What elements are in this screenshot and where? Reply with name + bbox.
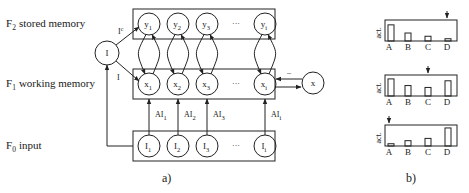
- tick-label-d: D: [444, 147, 451, 157]
- edge-f0-to-i: [107, 65, 133, 146]
- edge-label-ai2: AI2: [184, 110, 196, 121]
- tick-label-b: B: [405, 42, 411, 52]
- tick-label-c: C: [425, 147, 431, 157]
- chart-frame: [385, 75, 457, 96]
- edge-label-i: I: [117, 73, 120, 82]
- figure: F2stored memoryF1working memoryF0input y…: [0, 0, 469, 193]
- node-label-x3: x3: [202, 79, 210, 91]
- bar-d: [445, 39, 451, 41]
- tick-label-c: C: [425, 42, 431, 52]
- node-label-i1: I1: [145, 141, 151, 153]
- node-label-i3: I3: [203, 141, 209, 153]
- layer-label-f2: F2stored memory: [6, 17, 86, 32]
- layer-label-f0: F0input: [6, 139, 42, 154]
- bar-d: [445, 128, 451, 146]
- node-label-x1: x1: [144, 79, 152, 91]
- node-label-x: x: [311, 78, 316, 88]
- node-label-i2: I2: [174, 141, 180, 153]
- node-label-i: I: [106, 48, 109, 58]
- edge-top-down: [254, 35, 262, 75]
- tick-label-d: D: [444, 42, 451, 52]
- bar-a: [388, 144, 394, 146]
- bar-b: [405, 86, 411, 96]
- y-axis-label: act.: [374, 27, 383, 38]
- tick-label-a: A: [386, 147, 393, 157]
- layer-label-f1: F1working memory: [6, 77, 95, 92]
- edge-label-ic: Ic: [118, 26, 124, 36]
- activation-chart-2: act.ABCD: [374, 66, 457, 107]
- bar-b: [405, 33, 411, 41]
- activation-chart-3: act.ABCD: [374, 116, 457, 157]
- node-label-yi: yi: [261, 19, 268, 31]
- bar-b: [405, 141, 411, 146]
- edge-bottom-up: [181, 35, 189, 75]
- panel-a-art1-network: F2stored memoryF1working memoryF0input y…: [6, 9, 324, 185]
- node-label-ii: Ii: [262, 141, 267, 153]
- edge-label-ai1: AI1: [155, 110, 167, 121]
- bar-a: [388, 79, 394, 96]
- tick-label-a: A: [386, 42, 393, 52]
- ellipsis: ···: [232, 141, 240, 150]
- bar-c: [425, 138, 431, 146]
- bar-a: [388, 25, 394, 41]
- tick-label-b: B: [405, 97, 411, 107]
- node-label-xi: xi: [261, 79, 268, 91]
- edge-label-minus: –: [286, 68, 292, 77]
- edge-label-ai3: AI3: [213, 110, 225, 121]
- bar-c: [425, 36, 431, 41]
- tick-label-c: C: [425, 97, 431, 107]
- edge-bottom-up: [152, 35, 160, 75]
- panel-b-caption: b): [406, 171, 416, 185]
- node-label-y2: y2: [173, 19, 181, 31]
- node-label-x2: x2: [173, 79, 181, 91]
- tick-label-b: B: [405, 147, 411, 157]
- tick-label-d: D: [444, 97, 451, 107]
- bar-c: [425, 87, 431, 96]
- bar-d: [445, 81, 451, 96]
- y-axis-label: act.: [374, 132, 383, 143]
- edge-bottom-up: [210, 35, 218, 75]
- edge-label-aii: AIi: [271, 110, 281, 121]
- tick-label-a: A: [386, 97, 393, 107]
- edge-bottom-up: [268, 35, 276, 75]
- edge-top-down: [196, 35, 204, 75]
- ellipsis: ···: [232, 19, 240, 28]
- edge-top-down: [138, 35, 146, 75]
- node-label-y3: y3: [202, 19, 210, 31]
- panel-b-activation-charts: act.ABCDact.ABCDact.ABCD b): [374, 11, 457, 185]
- ellipsis: ···: [232, 79, 240, 88]
- node-label-y1: y1: [144, 19, 152, 31]
- edge-top-down: [167, 35, 175, 75]
- y-axis-label: act.: [374, 82, 383, 93]
- activation-chart-1: act.ABCD: [374, 11, 457, 52]
- panel-a-caption: a): [162, 171, 171, 185]
- chart-frame: [385, 20, 457, 41]
